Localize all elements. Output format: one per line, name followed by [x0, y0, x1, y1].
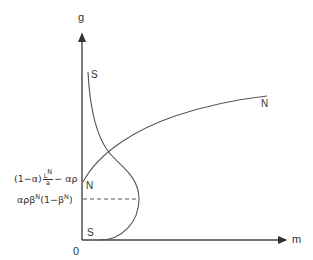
n-curve-label-start: N — [86, 181, 93, 191]
x-axis-label: m — [292, 234, 301, 244]
lower-part2: (1−β — [40, 194, 64, 205]
s-curve-label-top: S — [91, 70, 98, 80]
y-axis-label: g — [78, 12, 84, 22]
origin-label: 0 — [73, 246, 79, 256]
lower-part1: αρβ — [17, 194, 35, 205]
numerator-exponent: N — [47, 168, 52, 176]
diagram-canvas — [0, 0, 313, 260]
s-curve — [88, 72, 139, 240]
n-curve — [83, 96, 267, 182]
upper-prefix: (1−α) — [14, 173, 42, 184]
y-annotation-upper: (1−α)LNa− αρ — [14, 172, 77, 186]
n-curve-label-end: N — [261, 99, 268, 109]
fraction-denominator: a — [43, 180, 54, 186]
y-annotation-lower: αρβN(1−βN) — [17, 195, 73, 205]
s-curve-label-bottom: S — [87, 228, 94, 238]
lower-part3: ) — [69, 194, 73, 205]
upper-fraction: LNa — [43, 172, 54, 186]
upper-suffix: − αρ — [54, 173, 77, 184]
